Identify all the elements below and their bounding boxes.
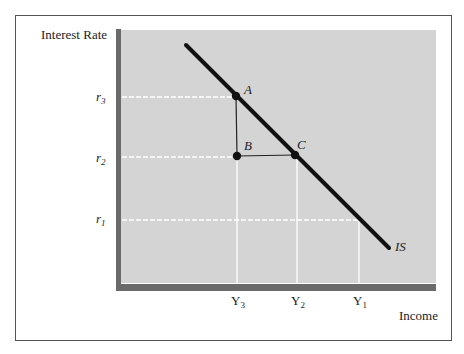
y-axis (116, 29, 121, 291)
x-axis (116, 284, 436, 291)
label-c: C (297, 137, 306, 153)
point-a (232, 92, 240, 100)
tick-y3: Y3 (231, 293, 245, 309)
tick-y2: Y2 (291, 293, 305, 309)
tick-r2: r2 (96, 150, 106, 166)
point-b (233, 152, 241, 160)
tick-r3: r3 (96, 89, 106, 105)
label-a: A (244, 82, 252, 98)
label-b: B (244, 138, 252, 154)
x-axis-title: Income (399, 308, 438, 324)
y-axis-title: Interest Rate (41, 27, 107, 43)
tick-r1: r1 (96, 211, 106, 227)
label-is: IS (395, 239, 406, 255)
tick-y1: Y1 (353, 293, 367, 309)
